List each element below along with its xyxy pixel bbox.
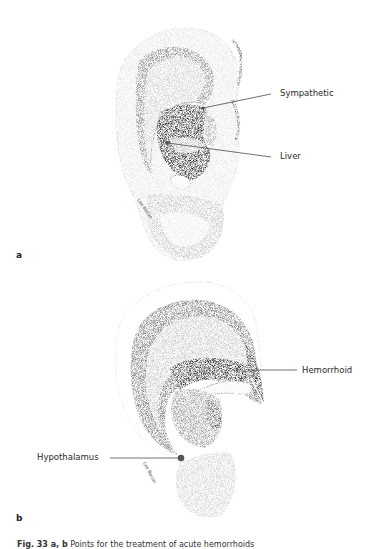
panel-letter-b: b [16,514,22,523]
label-liver: Liver [280,152,301,161]
figure-caption: Fig. 33 a, b Points for the treatment of… [17,541,254,549]
label-hemorrhoid: Hemorrhoid [302,366,352,375]
hypothalamus-point [178,455,185,462]
label-hypothalamus: Hypothalamus [37,453,99,462]
panel-letter-a: a [16,251,22,260]
ear-b [115,282,264,518]
artist-signature-b: Lee Bacon [142,461,157,484]
caption-text: Points for the treatment of acute hemorr… [70,540,254,549]
label-sympathetic: Sympathetic [280,89,334,98]
caption-prefix: Fig. 33 a, b [17,540,68,549]
